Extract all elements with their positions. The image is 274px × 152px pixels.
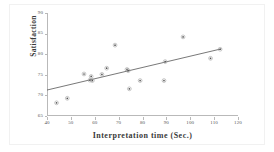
data-point <box>181 35 185 39</box>
data-layer <box>0 0 274 152</box>
trendline <box>47 49 221 90</box>
data-point <box>65 96 69 100</box>
data-point <box>209 56 213 60</box>
data-point <box>55 101 59 105</box>
data-point <box>162 79 166 83</box>
data-point <box>100 72 104 76</box>
scatter-plot-figure: Satisfaction Interpretation time (Sec.) … <box>0 0 274 152</box>
data-point <box>138 79 142 83</box>
data-point <box>127 87 131 91</box>
data-point <box>82 72 86 76</box>
data-point <box>113 43 117 47</box>
data-point <box>89 75 93 79</box>
data-point <box>105 66 109 70</box>
